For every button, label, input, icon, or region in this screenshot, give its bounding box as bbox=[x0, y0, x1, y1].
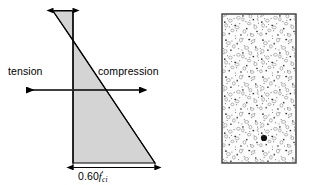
stress-subscript: ci bbox=[102, 175, 108, 184]
stress-limit-label: 0.60f′ci bbox=[78, 169, 108, 185]
tension-label: tension bbox=[8, 66, 43, 77]
stress-coefficient: 0.60 bbox=[78, 170, 99, 182]
compression-label: compression bbox=[98, 66, 159, 77]
stress-diagram-graphic bbox=[0, 0, 310, 185]
concrete-cross-section bbox=[222, 14, 296, 163]
prestressed-concrete-stress-figure: tension compression 0.60f′ci bbox=[0, 0, 310, 185]
aggregate-particle-large bbox=[261, 135, 267, 141]
